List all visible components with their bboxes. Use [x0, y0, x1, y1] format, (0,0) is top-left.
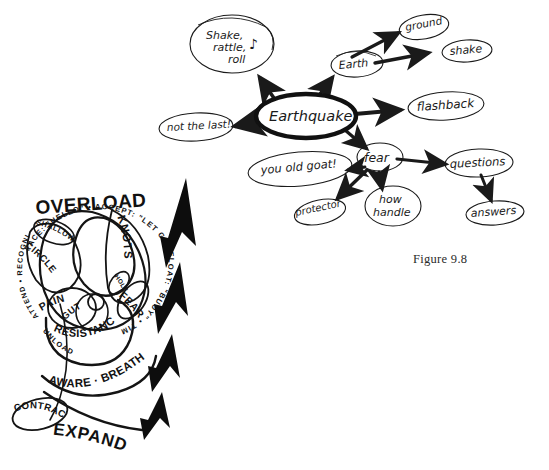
- figure-caption: Figure 9.8: [413, 252, 467, 267]
- edge-fear-to-questions: [397, 159, 445, 164]
- edge-earthquake-to-fear: [345, 130, 366, 148]
- node-label-fear: fear: [364, 150, 390, 165]
- node-label-how: how: [379, 193, 402, 206]
- node-label-handle: handle: [373, 206, 411, 219]
- node-label-not-the-last: not the last!: [166, 118, 231, 133]
- node-label-flashback: flashback: [416, 96, 475, 114]
- ring-text-left: ATTEND • RECOGNIZE • FACE: [0, 0, 40, 321]
- svg-text:KNOTS: KNOTS: [115, 214, 134, 260]
- arrow-chevron-4: [140, 392, 170, 440]
- edge-earthquake-to-flashback: [355, 110, 400, 114]
- spiral-inner-labels: OVERLOAD SHALLOW CIRCLE PAIN GUT KNOTS H: [0, 0, 147, 455]
- spiral-diagram[interactable]: FACE: "HELLO" • ACCEPT: "LET GO" FLOAT: …: [0, 0, 196, 455]
- node-label-shake-node: shake: [449, 42, 483, 58]
- node-label-you-old-goat: you old goat!: [259, 156, 337, 177]
- ring-text-right: FLOAT: "BUOY" • TIME: "NOW": [0, 0, 176, 337]
- node-label-answers: answers: [470, 204, 517, 220]
- music-note-icon: ♪: [249, 36, 258, 52]
- figure-canvas: Shake, rattle, ♪ roll not the last! Eart…: [0, 0, 549, 470]
- svg-text:ATTEND • RECOGNIZE • FACE: ATTEND • RECOGNIZE • FACE: [0, 0, 40, 321]
- arrow-chevron-3: [148, 334, 180, 392]
- node-label-questions: questions: [449, 154, 505, 171]
- figure-page: Shake, rattle, ♪ roll not the last! Eart…: [0, 0, 549, 470]
- spiral-label-knots: KNOTS: [115, 214, 134, 260]
- edge-questions-to-answers: [481, 175, 491, 200]
- edge-fear-to-howhandle: [379, 172, 382, 188]
- edge-earthquake-to-notthelast: [236, 122, 257, 126]
- node-label-ground: ground: [404, 14, 443, 33]
- edge-fear-to-protector: [338, 170, 367, 198]
- node-label-earthquake: Earthquake: [269, 108, 353, 124]
- node-label-roll: roll: [228, 53, 245, 66]
- arrow-chevron-1: [160, 178, 196, 268]
- node-label-earth: Earth: [338, 56, 369, 72]
- svg-text:FLOAT: "BUOY" • TIME: "NOW": FLOAT: "BUOY" • TIME: "NOW": [0, 0, 176, 337]
